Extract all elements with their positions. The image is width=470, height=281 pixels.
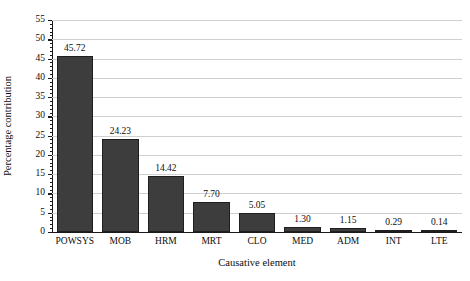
x-tick-label: MRT [201, 237, 221, 247]
y-minor-tick-mark [50, 109, 53, 110]
y-tick-mark [48, 20, 52, 21]
y-tick-mark [48, 213, 52, 214]
y-minor-tick-mark [50, 43, 53, 44]
x-tick-label: MED [292, 237, 313, 247]
y-minor-tick-mark [50, 28, 53, 29]
bar-value-label: 0.14 [431, 218, 448, 228]
y-tick-label: 50 [36, 35, 46, 45]
x-axis-title: Causative element [52, 258, 462, 269]
y-tick-label: 15 [36, 169, 46, 179]
y-minor-tick-mark [50, 197, 53, 198]
y-tick-mark [48, 116, 52, 117]
x-tick-label: LTE [431, 237, 448, 247]
bar-value-label: 1.30 [294, 215, 311, 225]
y-tick-label: 55 [36, 15, 46, 25]
y-minor-tick-mark [50, 186, 53, 187]
bar-value-label: 5.05 [249, 201, 266, 211]
y-tick-mark [48, 59, 52, 60]
y-minor-tick-mark [50, 205, 53, 206]
y-minor-tick-mark [50, 128, 53, 129]
y-minor-tick-mark [50, 147, 53, 148]
x-tick-label: ADM [337, 237, 359, 247]
y-minor-tick-mark [50, 101, 53, 102]
y-minor-tick-mark [50, 228, 53, 229]
y-minor-tick-mark [50, 93, 53, 94]
y-minor-tick-mark [50, 217, 53, 218]
gridline [52, 116, 462, 117]
bar [284, 227, 320, 232]
bar [375, 230, 411, 232]
bar-value-label: 7.70 [203, 190, 220, 200]
x-tick-label: MOB [110, 237, 132, 247]
bar [148, 176, 184, 232]
y-tick-label: 0 [40, 227, 45, 237]
y-minor-tick-mark [50, 24, 53, 25]
y-minor-tick-mark [50, 82, 53, 83]
y-tick-mark [48, 232, 52, 233]
y-minor-tick-mark [50, 220, 53, 221]
gridline [52, 78, 462, 79]
y-minor-tick-mark [50, 55, 53, 56]
y-minor-tick-mark [50, 166, 53, 167]
y-minor-tick-mark [50, 163, 53, 164]
x-axis-baseline [52, 232, 462, 233]
y-minor-tick-mark [50, 143, 53, 144]
y-tick-label: 45 [36, 54, 46, 64]
bar-value-label: 1.15 [340, 216, 357, 226]
y-minor-tick-mark [50, 62, 53, 63]
y-minor-tick-mark [50, 132, 53, 133]
y-tick-mark [48, 78, 52, 79]
bar [421, 230, 457, 232]
plot-area: 45.7224.2314.427.705.051.301.150.290.14 [52, 20, 462, 232]
x-tick-label: INT [386, 237, 402, 247]
gridline [52, 59, 462, 60]
bar-value-label: 0.29 [385, 218, 402, 228]
y-minor-tick-mark [50, 120, 53, 121]
y-minor-tick-mark [50, 151, 53, 152]
bar [57, 56, 93, 232]
y-axis-title: Percentage contribution [3, 76, 14, 176]
y-minor-tick-mark [50, 35, 53, 36]
y-tick-mark [48, 39, 52, 40]
y-minor-tick-mark [50, 70, 53, 71]
y-minor-tick-mark [50, 113, 53, 114]
y-minor-tick-mark [50, 178, 53, 179]
y-minor-tick-mark [50, 209, 53, 210]
y-minor-tick-mark [50, 124, 53, 125]
y-minor-tick-mark [50, 74, 53, 75]
y-minor-tick-mark [50, 86, 53, 87]
bar [330, 228, 366, 232]
y-minor-tick-mark [50, 182, 53, 183]
y-tick-label: 35 [36, 92, 46, 102]
bar [102, 139, 138, 232]
y-tick-mark [48, 174, 52, 175]
y-minor-tick-mark [50, 51, 53, 52]
y-tick-mark [48, 97, 52, 98]
bar-value-label: 14.42 [155, 164, 176, 174]
y-minor-tick-mark [50, 139, 53, 140]
bar [239, 213, 275, 232]
y-minor-tick-mark [50, 224, 53, 225]
y-tick-label: 5 [40, 208, 45, 218]
y-tick-mark [48, 155, 52, 156]
y-tick-mark [48, 136, 52, 137]
y-minor-tick-mark [50, 201, 53, 202]
y-minor-tick-mark [50, 105, 53, 106]
y-minor-tick-mark [50, 89, 53, 90]
x-tick-label: CLO [248, 237, 267, 247]
y-minor-tick-mark [50, 170, 53, 171]
bar [193, 202, 229, 232]
gridline [52, 20, 462, 21]
y-minor-tick-mark [50, 66, 53, 67]
bar-chart-figure: 45.7224.2314.427.705.051.301.150.290.14 … [0, 0, 470, 281]
y-tick-label: 30 [36, 112, 46, 122]
y-tick-label: 25 [36, 131, 46, 141]
y-tick-label: 20 [36, 150, 46, 160]
y-tick-label: 40 [36, 73, 46, 83]
y-tick-mark [48, 193, 52, 194]
x-tick-label: HRM [155, 237, 177, 247]
y-minor-tick-mark [50, 159, 53, 160]
gridline [52, 39, 462, 40]
gridline [52, 97, 462, 98]
y-tick-label: 10 [36, 189, 46, 199]
